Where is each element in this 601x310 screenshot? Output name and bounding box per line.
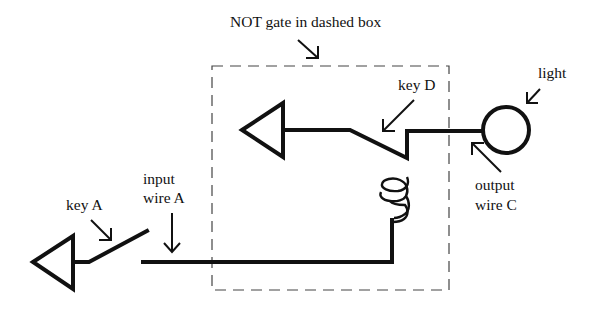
output-label-line2: wire C — [475, 196, 517, 213]
key-a-arrow-icon — [91, 220, 111, 240]
input-wire-a — [143, 220, 392, 262]
output-label-line1: output — [475, 176, 515, 193]
light-bulb-icon — [483, 107, 529, 153]
input-label-line2: wire A — [143, 189, 186, 206]
key-d-label: key D — [398, 76, 435, 93]
key-d-arrow-icon — [383, 100, 414, 131]
title-arrow-icon — [298, 40, 318, 58]
key-a-label: key A — [66, 196, 103, 213]
not-gate-diagram: NOT gate in dashed box key D light outpu… — [0, 0, 601, 310]
output-arrow-icon — [472, 143, 501, 172]
coil-icon — [380, 177, 408, 222]
left-triangle-icon — [33, 236, 73, 289]
title-label: NOT gate in dashed box — [230, 13, 381, 30]
key-d-switch — [283, 130, 483, 158]
light-arrow-icon — [527, 89, 540, 103]
gate-triangle-icon — [242, 103, 283, 157]
input-arrow-icon — [164, 213, 180, 252]
input-label-line1: input — [143, 170, 176, 187]
light-label: light — [538, 64, 567, 81]
